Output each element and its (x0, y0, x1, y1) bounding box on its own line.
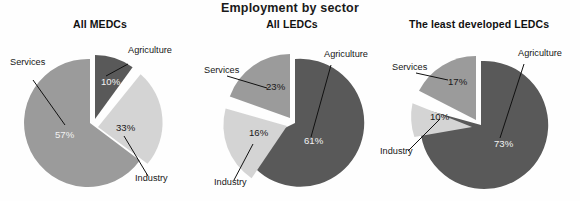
value-agriculture-least-developed-ledcs: 73% (494, 139, 513, 149)
value-services-all-medcs: 57% (55, 130, 74, 140)
label-services-all-medcs: Services (10, 58, 45, 67)
panel-title-least-developed-ledcs: The least developed LEDCs (378, 18, 580, 30)
value-services-least-developed-ledcs: 17% (448, 77, 467, 87)
panel-title-all-ledcs: All LEDCs (194, 18, 390, 30)
pie-panel-all-medcs: All MEDCs Services Agriculture Industry … (2, 18, 198, 201)
value-agriculture-all-medcs: 10% (101, 77, 120, 87)
label-services-all-ledcs: Services (204, 66, 239, 75)
pie-panel-all-ledcs: All LEDCs Services Agriculture Industry … (194, 18, 390, 201)
value-industry-least-developed-ledcs: 10% (430, 112, 449, 122)
label-agriculture-all-ledcs: Agriculture (324, 50, 368, 59)
panel-title-all-medcs: All MEDCs (2, 18, 198, 30)
label-agriculture-all-medcs: Agriculture (128, 46, 172, 55)
employment-by-sector-figure: Employment by sector All MEDCs Services … (0, 0, 580, 201)
value-services-all-ledcs: 23% (266, 82, 285, 92)
label-industry-all-ledcs: Industry (214, 178, 247, 187)
figure-title: Employment by sector (0, 1, 580, 15)
label-services-least-developed-ledcs: Services (392, 63, 427, 72)
pie-panel-least-developed-ledcs: The least developed LEDCs Services Agric… (378, 18, 580, 201)
label-industry-all-medcs: Industry (135, 174, 168, 183)
value-agriculture-all-ledcs: 61% (304, 136, 323, 146)
label-industry-least-developed-ledcs: Industry (380, 147, 413, 156)
value-industry-all-medcs: 33% (116, 123, 135, 133)
value-industry-all-ledcs: 16% (249, 128, 268, 138)
label-agriculture-least-developed-ledcs: Agriculture (518, 49, 562, 58)
